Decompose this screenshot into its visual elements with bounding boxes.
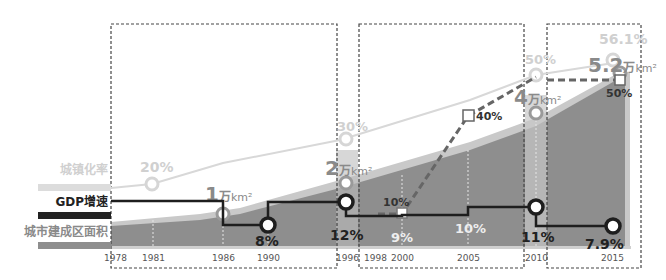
dashed-label-2015: 50% xyxy=(606,87,632,100)
area-value-1986: 1万km² xyxy=(205,182,252,206)
dashed-marker-2015 xyxy=(615,75,625,85)
legend-swatch-area xyxy=(38,242,111,249)
svg-text:1998: 1998 xyxy=(364,253,387,263)
legend-label-gdp: GDP增速 xyxy=(55,194,108,209)
svg-text:2015: 2015 xyxy=(601,253,624,263)
svg-text:2000: 2000 xyxy=(391,253,414,263)
baseline-strip xyxy=(111,246,631,249)
dashed-label-2005: 40% xyxy=(476,110,502,123)
dashed-label-2000: 10% xyxy=(383,196,409,209)
x-axis-ticks: 1978 1981 1986 1990 1996 1998 2000 2005 … xyxy=(104,253,624,263)
svg-text:1978: 1978 xyxy=(104,253,127,263)
dashed-marker-2005 xyxy=(463,110,474,121)
legend-swatch-urbanization xyxy=(38,184,111,191)
gdp-label-2005: 10% xyxy=(455,221,486,236)
area-value-2010: 4万km² xyxy=(514,85,561,109)
gdp-label-2010: 11% xyxy=(521,229,555,245)
legend-swatch-gdp xyxy=(38,212,111,219)
legend-label-urbanization: 城镇化率 xyxy=(60,162,108,177)
legend-label-area: 城市建成区面积 xyxy=(24,224,108,239)
gdp-label-2000: 9% xyxy=(391,230,413,245)
chart: 城镇化率 GDP增速 城市建成区面积 20% 30% 50% 56.1% 1万k… xyxy=(0,0,666,280)
urbanization-label-2015: 56.1% xyxy=(599,31,648,47)
urbanization-label-2010: 50% xyxy=(525,52,556,67)
gdp-label-1990: 8% xyxy=(255,233,279,249)
gdp-label-1996: 12% xyxy=(330,227,364,243)
svg-text:1996: 1996 xyxy=(336,253,359,263)
svg-text:2005: 2005 xyxy=(457,253,480,263)
svg-text:1986: 1986 xyxy=(212,253,235,263)
gdp-label-2015: 7.9% xyxy=(585,236,624,252)
urbanization-label-1981: 20% xyxy=(140,159,174,175)
area-value-2015: 5.2万km² xyxy=(588,53,657,77)
svg-text:1990: 1990 xyxy=(257,253,280,263)
svg-text:2010: 2010 xyxy=(525,253,548,263)
svg-text:1981: 1981 xyxy=(142,253,165,263)
urbanization-label-1996: 30% xyxy=(337,119,368,134)
